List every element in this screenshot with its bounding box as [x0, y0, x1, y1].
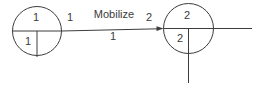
node-2-earliest-time: 2: [177, 33, 183, 44]
activity-arrowhead-icon: [157, 26, 164, 31]
activity-name-label: Mobilize: [94, 9, 134, 20]
node-2-event-number: 2: [184, 10, 190, 21]
node-1-earliest-time: 1: [25, 36, 31, 47]
node-1-event-number: 1: [33, 12, 39, 23]
network-diagram: 1 1 1 Mobilize 2 1 2 2: [0, 0, 263, 90]
arrow-tail-node-label: 1: [67, 12, 73, 23]
activity-duration-label: 1: [110, 31, 116, 42]
arrow-head-node-label: 2: [146, 12, 152, 23]
